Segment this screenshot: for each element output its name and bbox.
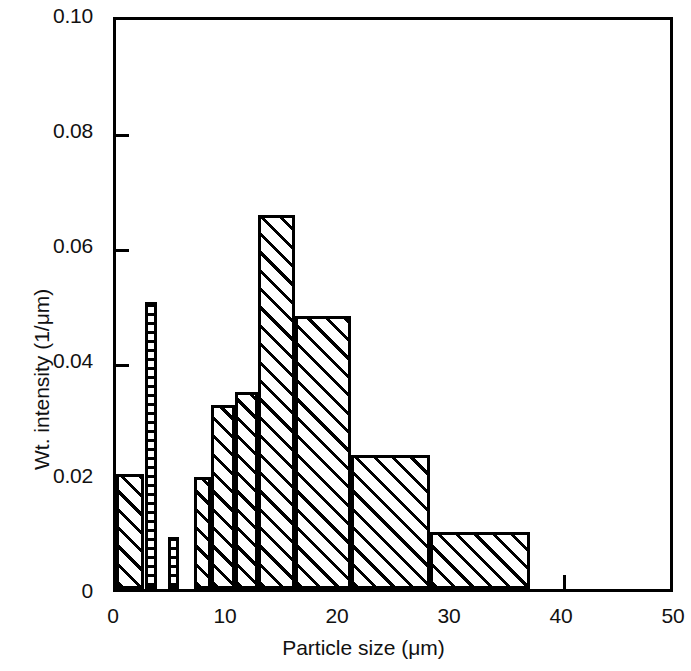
- plot-inner: [116, 20, 670, 589]
- y-axis-tick-label: 0.02: [0, 464, 93, 488]
- y-axis-tick-label: 0.10: [0, 4, 93, 28]
- histogram-bar: [235, 392, 259, 589]
- y-axis-tick-label: 0.04: [0, 349, 93, 373]
- x-axis-tick-label: 40: [521, 604, 601, 628]
- figure-histogram: Wt. intensity (1/μm) Particle size (μm) …: [0, 0, 691, 671]
- histogram-bar: [351, 455, 429, 589]
- plot-area: [113, 17, 673, 592]
- y-axis-tick-label: 0: [0, 579, 93, 603]
- histogram-bar: [194, 477, 211, 589]
- histogram-bar: [145, 302, 157, 590]
- histogram-bar: [116, 474, 144, 589]
- y-axis-tick-label: 0.06: [0, 234, 93, 258]
- histogram-bar: [258, 215, 295, 589]
- x-axis-tick: [563, 575, 566, 589]
- x-axis-tick-label: 20: [297, 604, 377, 628]
- y-axis-tick: [116, 134, 129, 137]
- x-axis-tick-label: 10: [185, 604, 265, 628]
- x-axis-tick-label: 50: [633, 604, 691, 628]
- histogram-bar: [211, 405, 235, 589]
- y-axis-tick: [116, 249, 129, 252]
- y-axis-label: Wt. intensity (1/μm): [30, 289, 54, 470]
- y-axis-tick-label: 0.08: [0, 119, 93, 143]
- histogram-bar: [168, 537, 179, 589]
- x-axis-tick-label: 30: [409, 604, 489, 628]
- histogram-bar: [295, 316, 351, 589]
- x-axis-tick-label: 0: [73, 604, 153, 628]
- histogram-bar: [430, 532, 531, 590]
- y-axis-tick: [116, 364, 129, 367]
- x-axis-label: Particle size (μm): [18, 636, 691, 660]
